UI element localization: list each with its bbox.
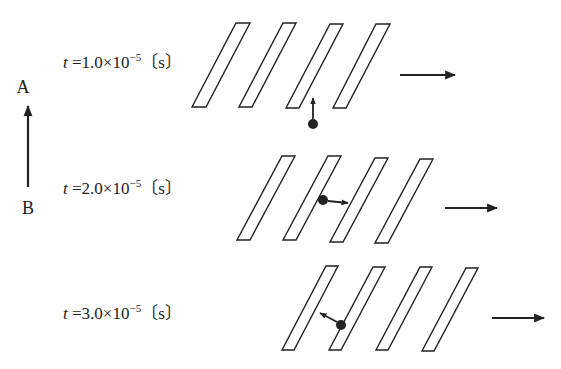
diagram-canvas: A B t =1.0×10−5〔s〕 t =2.0×10−5〔s〕 t =3.0… [0,0,561,369]
particle-dot [336,320,346,330]
stripe [333,24,390,108]
stripe [192,23,250,107]
particle-velocity-arrow-icon [320,313,337,322]
stripe [286,24,343,108]
time-label-2: t =2.0×10−5〔s〕 [63,177,182,198]
grating-stripes-1 [192,23,390,108]
axis-label-a: A [17,77,30,97]
particle-dot [308,119,318,129]
stripe [282,266,338,350]
stripe [237,156,295,240]
grating-stripes-2 [237,156,433,243]
particle-dot [318,195,328,205]
stripe [329,267,385,350]
stripe [375,159,433,243]
grating-stripes-3 [282,266,478,351]
stripe [283,156,341,240]
time-label-3: t =3.0×10−5〔s〕 [63,302,182,323]
stripe [376,267,432,350]
row-1: t =1.0×10−5〔s〕 [63,23,455,129]
row-2: t =2.0×10−5〔s〕 [63,156,497,243]
axis-label-b: B [22,198,34,218]
direction-axis: A B [17,77,35,218]
particle-velocity-arrow-icon [328,201,348,203]
stripe [330,158,388,242]
stripe [422,268,478,351]
row-3: t =3.0×10−5〔s〕 [63,266,544,351]
stripe [239,23,296,107]
time-label-1: t =1.0×10−5〔s〕 [63,51,182,72]
